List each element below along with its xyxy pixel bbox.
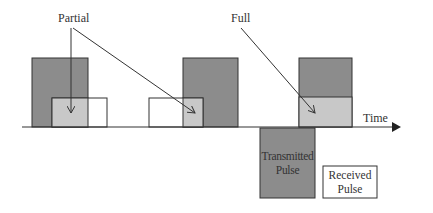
time-axis-arrowhead bbox=[392, 122, 401, 132]
legend-received-label: Received Pulse bbox=[323, 168, 377, 196]
legend-received-line1: Received bbox=[323, 168, 377, 182]
legend-transmitted-label: Transmitted Pulse bbox=[258, 149, 317, 177]
pulse-pair-1 bbox=[32, 58, 107, 127]
legend-received-line2: Pulse bbox=[323, 182, 377, 196]
overlap-region-2 bbox=[183, 98, 203, 127]
label-full: Full bbox=[231, 11, 250, 25]
label-time: Time bbox=[363, 111, 388, 125]
label-partial: Partial bbox=[58, 11, 89, 25]
legend-transmitted-line2: Pulse bbox=[258, 163, 317, 177]
overlap-region-1 bbox=[52, 98, 88, 127]
overlap-region-3 bbox=[299, 97, 352, 127]
pulse-pair-3 bbox=[299, 58, 352, 127]
pulse-pair-2 bbox=[149, 58, 238, 127]
legend-transmitted-line1: Transmitted bbox=[258, 149, 317, 163]
